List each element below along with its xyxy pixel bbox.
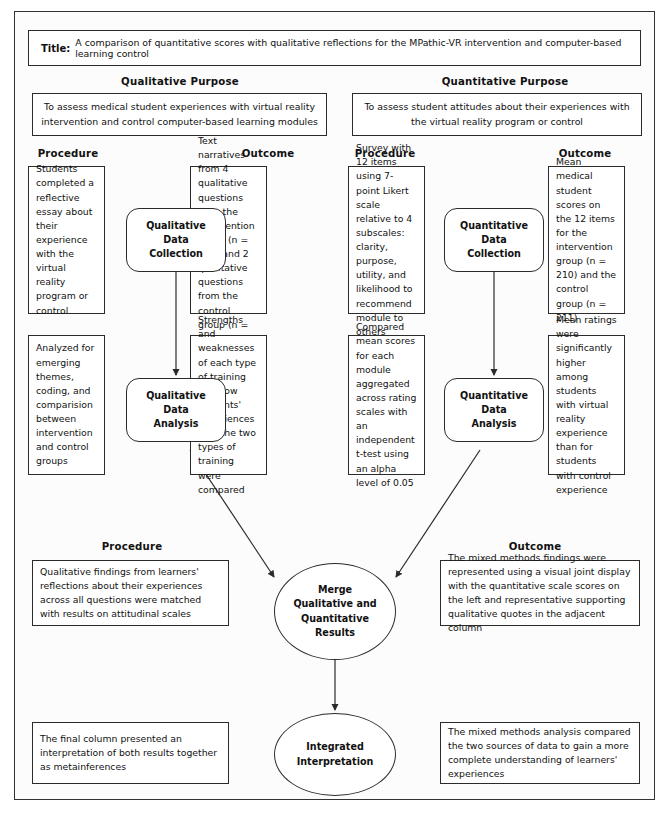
- box-text: Survey with 12 items using 7-point Liker…: [356, 141, 417, 339]
- node-merge-results: MergeQualitative andQuantitativeResults: [274, 563, 396, 660]
- box-quant-analysis-outcome: Mean ratings were significantly higher a…: [548, 335, 625, 475]
- quantitative-purpose-box: To assess student attitudes about their …: [352, 93, 642, 136]
- box-merge-procedure: Qualitative findings from learners' refl…: [32, 560, 229, 626]
- header-qual-procedure: Procedure: [28, 148, 108, 159]
- box-text: Mean medical student scores on the 12 it…: [556, 155, 617, 325]
- box-integrated-procedure: The final column presented an interpreta…: [32, 722, 229, 784]
- box-text: The final column presented an interpreta…: [40, 732, 221, 774]
- qualitative-purpose-text: To assess medical student experiences wi…: [41, 100, 318, 129]
- qualitative-purpose-heading: Qualitative Purpose: [100, 76, 260, 87]
- box-text: Analyzed for emerging themes, coding, an…: [36, 341, 97, 468]
- title-label: Title:: [41, 43, 70, 54]
- diagram-canvas: Title: A comparison of quantitative scor…: [0, 0, 668, 826]
- box-qual-collection-procedure: Students completed a reflective essay ab…: [28, 166, 105, 314]
- node-label: IntegratedInterpretation: [297, 740, 374, 769]
- qualitative-purpose-box: To assess medical student experiences wi…: [32, 93, 327, 136]
- quantitative-purpose-text: To assess student attitudes about their …: [361, 100, 633, 129]
- node-integrated-interpretation: IntegratedInterpretation: [274, 713, 396, 796]
- node-label: QualitativeDataAnalysis: [146, 389, 206, 431]
- box-text: Compared mean scores for each module agg…: [356, 320, 417, 490]
- box-quant-collection-procedure: Survey with 12 items using 7-point Liker…: [348, 166, 425, 314]
- box-text: The mixed methods analysis compared the …: [448, 725, 632, 782]
- title-text: A comparison of quantitative scores with…: [75, 37, 628, 59]
- node-quantitative-data-collection: QuantitativeDataCollection: [444, 208, 544, 272]
- box-integrated-outcome: The mixed methods analysis compared the …: [440, 722, 640, 784]
- header-merge-procedure: Procedure: [72, 541, 192, 552]
- box-merge-outcome: The mixed methods findings were represen…: [440, 560, 640, 626]
- box-quant-collection-outcome: Mean medical student scores on the 12 it…: [548, 166, 625, 314]
- box-text: Qualitative findings from learners' refl…: [40, 565, 221, 622]
- box-text: Mean ratings were significantly higher a…: [556, 313, 617, 497]
- box-quant-analysis-procedure: Compared mean scores for each module agg…: [348, 335, 425, 475]
- node-label: QuantitativeDataAnalysis: [460, 389, 528, 431]
- box-qual-analysis-procedure: Analyzed for emerging themes, coding, an…: [28, 335, 105, 475]
- node-label: QualitativeDataCollection: [146, 219, 206, 261]
- box-text: Students completed a reflective essay ab…: [36, 162, 97, 317]
- node-label: QuantitativeDataCollection: [460, 219, 528, 261]
- box-text: The mixed methods findings were represen…: [448, 551, 632, 636]
- quantitative-purpose-heading: Quantitative Purpose: [420, 76, 590, 87]
- node-qualitative-data-collection: QualitativeDataCollection: [126, 208, 226, 272]
- node-qualitative-data-analysis: QualitativeDataAnalysis: [126, 378, 226, 442]
- title-box: Title: A comparison of quantitative scor…: [28, 30, 641, 66]
- node-label: MergeQualitative andQuantitativeResults: [293, 583, 376, 641]
- node-quantitative-data-analysis: QuantitativeDataAnalysis: [444, 378, 544, 442]
